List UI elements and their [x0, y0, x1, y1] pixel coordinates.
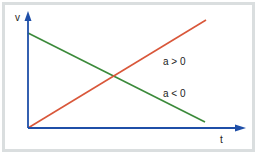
y-axis-arrow-icon — [25, 11, 32, 21]
x-axis-arrow-icon — [235, 125, 246, 132]
line-negative-acceleration — [28, 33, 205, 122]
velocity-time-graph — [0, 0, 257, 158]
x-axis-label: t — [220, 135, 223, 145]
y-axis-label: v — [15, 13, 20, 23]
label-positive-acceleration: a > 0 — [163, 57, 186, 67]
line-positive-acceleration — [28, 20, 206, 128]
label-negative-acceleration: a < 0 — [163, 89, 186, 99]
